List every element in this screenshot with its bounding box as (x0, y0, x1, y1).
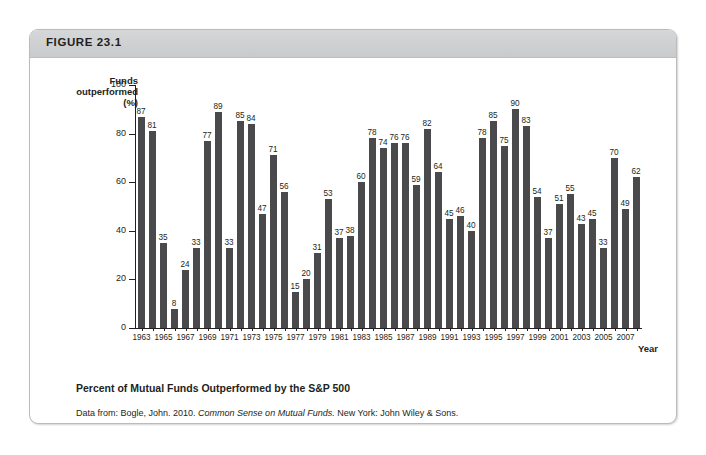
bar: 76 (402, 143, 409, 328)
bar-value-label: 60 (357, 172, 366, 181)
bar: 77 (204, 141, 211, 328)
x-tick-mark (604, 328, 605, 331)
x-tick-label: 1981 (330, 333, 348, 342)
bar-value-label: 85 (489, 111, 498, 120)
bar-slot: 311979 (312, 85, 323, 328)
bar: 75 (501, 146, 508, 328)
bar-slot: 76 (389, 85, 400, 328)
bar: 60 (358, 182, 365, 328)
y-tick-label: 80 (116, 128, 126, 138)
bar: 24 (182, 270, 189, 328)
bar-value-label: 33 (192, 238, 201, 247)
bar-slot: 78 (477, 85, 488, 328)
x-tick-label: 1985 (374, 333, 392, 342)
bar-slot: 331971 (224, 85, 235, 328)
bar: 43 (578, 224, 585, 328)
bar-value-label: 89 (214, 102, 223, 111)
bar-value-label: 54 (533, 187, 542, 196)
source-prefix: Data from: Bogle, John. 2010. (76, 408, 196, 418)
bar-value-label: 56 (280, 182, 289, 191)
x-tick-mark (142, 328, 143, 331)
bar-slot: 8 (169, 85, 180, 328)
bar-slot: 47 (257, 85, 268, 328)
bar-value-label: 20 (302, 269, 311, 278)
bar: 78 (369, 138, 376, 328)
x-tick-mark (230, 328, 231, 331)
bar-slot: 81 (147, 85, 158, 328)
x-tick-mark (318, 328, 319, 331)
x-tick-label: 1973 (242, 333, 260, 342)
bar-value-label: 37 (335, 228, 344, 237)
bar-slot: 56 (279, 85, 290, 328)
bar-value-label: 71 (269, 145, 278, 154)
x-tick-mark (560, 328, 561, 331)
bar-value-label: 87 (137, 107, 146, 116)
bar-slot: 492007 (620, 85, 631, 328)
x-tick-mark (450, 328, 451, 331)
bar-slot: 901997 (510, 85, 521, 328)
bar-value-label: 75 (500, 136, 509, 145)
figure-caption: Percent of Mutual Funds Outperformed by … (76, 382, 350, 394)
bar-value-label: 82 (423, 119, 432, 128)
y-tick-mark (129, 85, 136, 86)
x-tick-mark (340, 328, 341, 331)
x-tick-mark (395, 328, 396, 331)
source-book-title: Common Sense on Mutual Funds. (198, 408, 335, 418)
bar: 8 (171, 309, 178, 328)
x-tick-label: 1989 (418, 333, 436, 342)
bar-value-label: 76 (390, 133, 399, 142)
bar-value-label: 24 (181, 260, 190, 269)
bar: 35 (160, 243, 167, 328)
bar: 85 (490, 121, 497, 328)
bar: 87 (138, 117, 145, 328)
x-tick-mark (637, 328, 638, 331)
bar-slot: 62 (631, 85, 642, 328)
x-tick-mark (164, 328, 165, 331)
y-tick-label: 60 (116, 176, 126, 186)
bar-slot: 541999 (532, 85, 543, 328)
x-tick-mark (439, 328, 440, 331)
y-axis-title-line1: Funds (68, 75, 138, 86)
bar: 49 (622, 209, 629, 328)
bar-slot: 851995 (488, 85, 499, 328)
bar-slot: 871963 (136, 85, 147, 328)
bar-value-label: 85 (236, 111, 245, 120)
x-tick-mark (494, 328, 495, 331)
bar: 83 (523, 126, 530, 328)
x-tick-mark (241, 328, 242, 331)
bar-value-label: 77 (203, 131, 212, 140)
bar-value-label: 62 (632, 167, 641, 176)
bar-value-label: 38 (346, 226, 355, 235)
bar: 82 (424, 129, 431, 328)
x-tick-mark (593, 328, 594, 331)
x-tick-label: 1971 (220, 333, 238, 342)
bar: 33 (193, 248, 200, 328)
x-tick-label: 2001 (550, 333, 568, 342)
bar-value-label: 81 (148, 121, 157, 130)
bar: 15 (292, 292, 299, 328)
bar-slot: 46 (455, 85, 466, 328)
bar-value-label: 35 (159, 233, 168, 242)
bar-value-label: 70 (610, 148, 619, 157)
bar: 59 (413, 185, 420, 328)
bar-value-label: 47 (258, 204, 267, 213)
bar-slot: 741985 (378, 85, 389, 328)
y-axis-title-line2: outperformed (%) (68, 86, 138, 108)
figure-header-bar: FIGURE 23.1 (30, 30, 676, 58)
bar-slot: 151977 (290, 85, 301, 328)
figure-number-label: FIGURE 23.1 (46, 36, 122, 48)
bar-slot: 512001 (554, 85, 565, 328)
x-tick-mark (285, 328, 286, 331)
x-tick-mark (219, 328, 220, 331)
chart-area: Funds outperformed (%) Year 020406080100… (30, 58, 676, 368)
bar-series: 8719638135196582419673377196989331971858… (136, 85, 641, 328)
bar: 20 (303, 279, 310, 328)
bar-value-label: 15 (291, 282, 300, 291)
x-tick-label: 1967 (176, 333, 194, 342)
bar: 33 (226, 248, 233, 328)
bar: 45 (589, 219, 596, 328)
bar: 89 (215, 112, 222, 328)
x-tick-mark (417, 328, 418, 331)
bar-value-label: 78 (478, 128, 487, 137)
bar: 56 (281, 192, 288, 328)
